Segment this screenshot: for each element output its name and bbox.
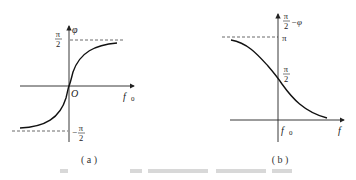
bottom-tick-minus-pi-over-2: − π 2	[72, 123, 85, 143]
svg-text:π: π	[284, 64, 289, 74]
x-axis-label-f: f	[338, 125, 342, 136]
panel-b: π 2 −φ π π 2 f 0 f ( b )	[222, 11, 344, 166]
svg-text:2: 2	[284, 74, 288, 84]
svg-text:0: 0	[131, 95, 135, 103]
svg-text:2: 2	[284, 21, 288, 31]
phase-complement-curve	[231, 40, 327, 118]
phase-curve	[20, 43, 117, 128]
y-axis-label-phi: φ	[72, 24, 78, 35]
svg-text:f: f	[123, 91, 127, 102]
diagram-canvas: φ π 2 O f 0 − π 2 ( a ) π 2 −φ	[0, 0, 356, 180]
svg-text:−: −	[72, 127, 77, 137]
caption-a: ( a )	[81, 154, 97, 166]
figure-caption-illegible	[60, 169, 300, 174]
panel-a: φ π 2 O f 0 − π 2 ( a )	[12, 24, 135, 166]
y-axis-label-pi-over-2-minus-phi: π 2 −φ	[283, 11, 302, 31]
svg-text:f: f	[281, 125, 285, 136]
svg-text:2: 2	[79, 133, 83, 143]
svg-text:π: π	[79, 123, 84, 133]
origin-label: O	[71, 88, 78, 99]
mid-tick-pi-over-2: π 2	[283, 64, 290, 84]
svg-text:π: π	[56, 29, 61, 39]
svg-text:π: π	[284, 11, 289, 21]
x-tick-label-f0: f 0	[281, 125, 293, 137]
svg-text:0: 0	[289, 129, 293, 137]
top-tick-pi: π	[282, 33, 287, 43]
x-axis-label-f0: f 0	[123, 91, 135, 103]
top-tick-pi-over-2: π 2	[55, 29, 62, 49]
caption-b: ( b )	[272, 154, 289, 166]
svg-text:2: 2	[56, 39, 60, 49]
svg-text:−φ: −φ	[291, 17, 302, 27]
